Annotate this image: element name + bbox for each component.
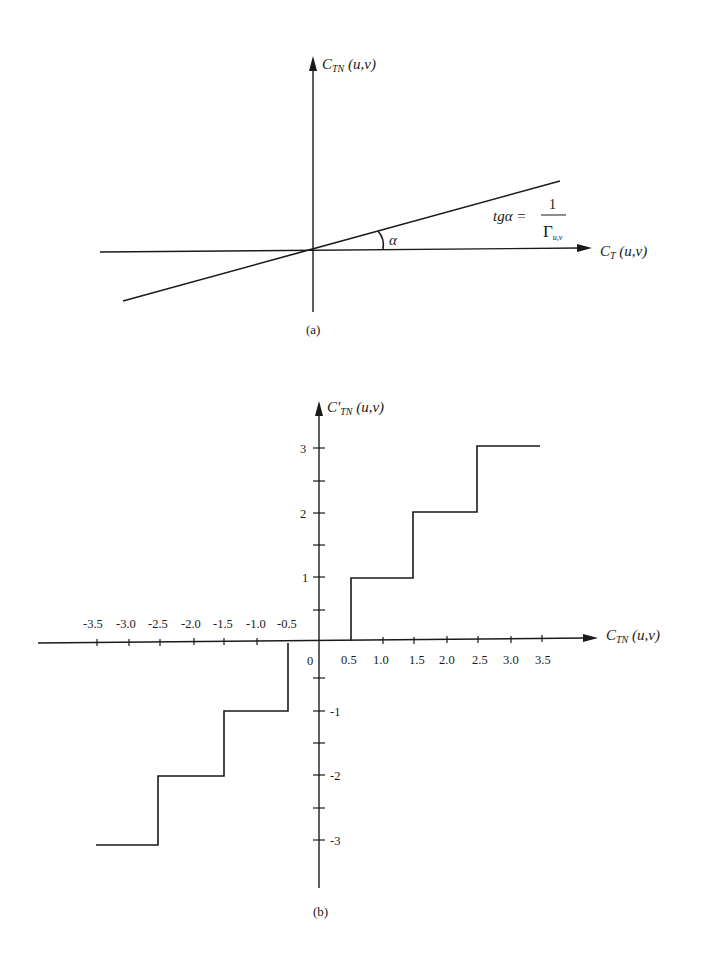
x-tick-label-neg1.0: -1.0	[246, 617, 266, 631]
figure-canvas: CTN (u,v) CT (u,v) α tgα = 1 Γu,v (a)	[0, 0, 708, 959]
formula-lhs: tgα =	[493, 208, 526, 224]
panel-b-staircase-negative	[96, 643, 288, 845]
origin-label: 0	[307, 654, 313, 668]
x-tick-label-3.0: 3.0	[503, 653, 519, 667]
panel-a-y-arrow-icon	[309, 56, 317, 71]
y-tick-label-1: 1	[302, 571, 308, 585]
y-tick-label-2: 2	[300, 507, 306, 521]
panel-b-x-axis	[38, 638, 585, 643]
x-tick-label-3.5: 3.5	[535, 653, 551, 667]
panel-b-y-label: C'TN (u,v)	[327, 399, 384, 417]
x-tick-label-2.5: 2.5	[472, 653, 488, 667]
panel-b-y-arrow-icon	[315, 401, 323, 416]
panel-b-caption: (b)	[313, 904, 328, 919]
formula-denominator: Γu,v	[543, 222, 563, 242]
x-tick-label-neg2.5: -2.5	[148, 617, 168, 631]
panel-a-angle-label: α	[389, 232, 398, 248]
x-tick-label-neg0.5: -0.5	[277, 617, 297, 631]
panel-b-x-arrow-icon	[583, 634, 598, 642]
panel-a-x-label: CT (u,v)	[600, 243, 647, 261]
panel-a-x-arrow-icon	[577, 244, 592, 252]
panel-b-x-label: CTN (u,v)	[606, 627, 660, 645]
x-tick-label-neg1.5: -1.5	[213, 617, 233, 631]
panel-b-staircase-positive	[351, 446, 540, 641]
panel-a-formula: tgα = 1 Γu,v	[493, 197, 566, 242]
x-tick-label-neg3.0: -3.0	[116, 617, 136, 631]
panel-a-linear-mapping-line	[123, 181, 560, 301]
y-tick-label-3: 3	[300, 442, 306, 456]
panel-a-caption: (a)	[306, 322, 320, 337]
x-tick-label-0.5: 0.5	[341, 653, 357, 667]
x-tick-label-1.5: 1.5	[409, 653, 425, 667]
x-tick-label-2.0: 2.0	[439, 653, 455, 667]
x-tick-label-neg2.0: -2.0	[181, 617, 201, 631]
x-tick-label-neg3.5: -3.5	[83, 617, 103, 631]
panel-b: 3 2 1 -1 -2 -3 -3.5 -3.0 -2.5 -2.0 -1.5 …	[38, 399, 660, 919]
y-tick-label-neg2: -2	[330, 769, 340, 783]
panel-a-angle-arc	[378, 231, 383, 249]
y-tick-label-neg3: -3	[330, 834, 340, 848]
x-tick-label-1.0: 1.0	[373, 653, 389, 667]
y-tick-label-neg1: -1	[330, 705, 340, 719]
panel-a: CTN (u,v) CT (u,v) α tgα = 1 Γu,v (a)	[100, 56, 647, 337]
formula-numerator: 1	[549, 197, 556, 212]
panel-a-x-axis	[100, 248, 580, 252]
panel-a-y-label: CTN (u,v)	[322, 56, 376, 74]
